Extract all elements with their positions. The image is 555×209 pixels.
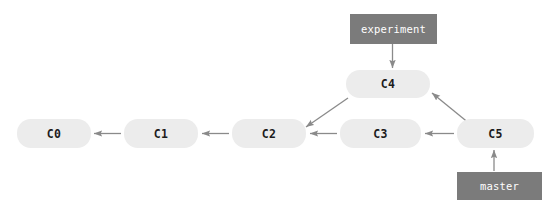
branch-label-text: experiment xyxy=(361,23,426,35)
commit-node-c0[interactable]: C0 xyxy=(17,119,91,148)
branch-label-master[interactable]: master xyxy=(457,172,542,200)
commit-node-c4[interactable]: C4 xyxy=(346,70,430,98)
commit-label: C4 xyxy=(381,77,395,91)
commit-label: C2 xyxy=(262,127,276,141)
commit-node-c3[interactable]: C3 xyxy=(340,119,421,148)
commit-node-c1[interactable]: C1 xyxy=(124,119,198,148)
commit-node-c2[interactable]: C2 xyxy=(232,119,306,148)
edge-c4-to-c2 xyxy=(306,98,348,127)
branch-label-text: master xyxy=(480,180,519,192)
git-commit-graph-diagram: C0 C1 C2 C3 C4 C5 experiment master xyxy=(0,0,555,209)
commit-label: C0 xyxy=(47,127,61,141)
commit-node-c5[interactable]: C5 xyxy=(457,119,534,148)
branch-label-experiment[interactable]: experiment xyxy=(350,14,437,44)
commit-label: C5 xyxy=(488,127,502,141)
commit-label: C1 xyxy=(154,127,168,141)
commit-label: C3 xyxy=(373,127,387,141)
